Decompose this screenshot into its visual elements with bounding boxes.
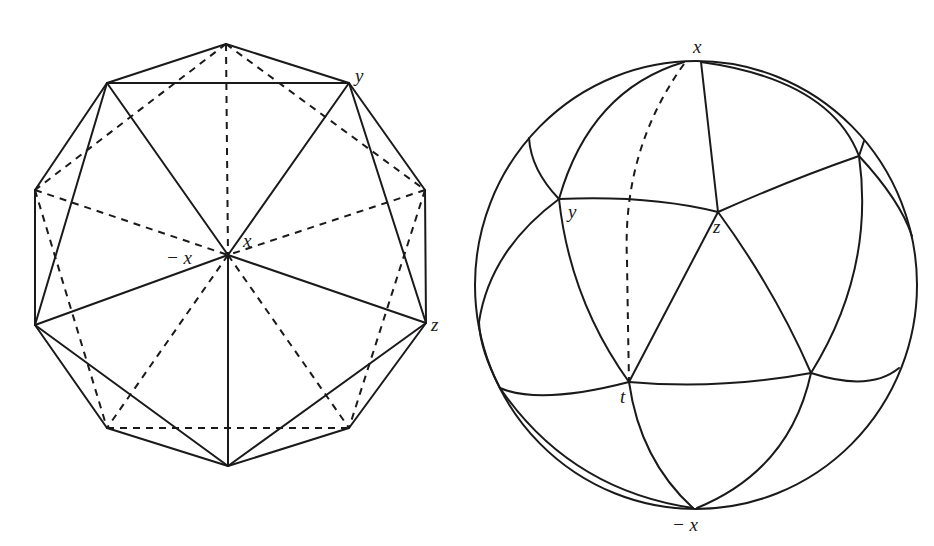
icosahedron-diagram: y x − x z [35, 44, 439, 466]
sphere-arcs [479, 62, 912, 508]
sphere-diagram: x y z t − x [475, 36, 917, 535]
visible-edges [35, 44, 426, 466]
label-neg-x: − x [672, 514, 699, 535]
label-y: y [353, 65, 364, 86]
label-x: x [242, 230, 252, 251]
label-t: t [620, 386, 626, 407]
label-z: z [430, 314, 439, 335]
label-x: x [692, 36, 702, 57]
label-z: z [712, 216, 721, 237]
label-neg-x: − x [166, 247, 193, 268]
figure-canvas: y x − x z [0, 0, 934, 546]
hidden-arc [627, 64, 684, 382]
label-y: y [566, 201, 577, 222]
